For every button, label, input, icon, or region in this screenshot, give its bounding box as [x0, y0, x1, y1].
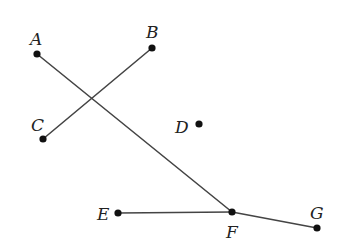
point-e-dot [114, 209, 121, 216]
point-d-dot [195, 120, 202, 127]
point-a-label: A [28, 29, 42, 49]
geometry-diagram: ABCDEFG [0, 0, 344, 250]
segments-group [37, 48, 317, 228]
point-f-label: F [225, 222, 239, 242]
segment-ef [118, 212, 232, 213]
point-a-dot [33, 50, 40, 57]
segment-bc [43, 48, 152, 139]
point-g-label: G [310, 203, 324, 223]
point-b-dot [148, 44, 155, 51]
point-b-label: B [145, 22, 159, 42]
point-c-dot [39, 135, 46, 142]
labels-group: ABCDEFG [28, 22, 324, 242]
point-f-dot [228, 208, 235, 215]
points-group [33, 44, 320, 231]
point-e-label: E [96, 204, 110, 224]
point-g-dot [313, 224, 320, 231]
point-c-label: C [31, 115, 44, 135]
point-d-label: D [174, 117, 189, 137]
segment-fg [232, 212, 317, 228]
segment-af [37, 54, 232, 212]
